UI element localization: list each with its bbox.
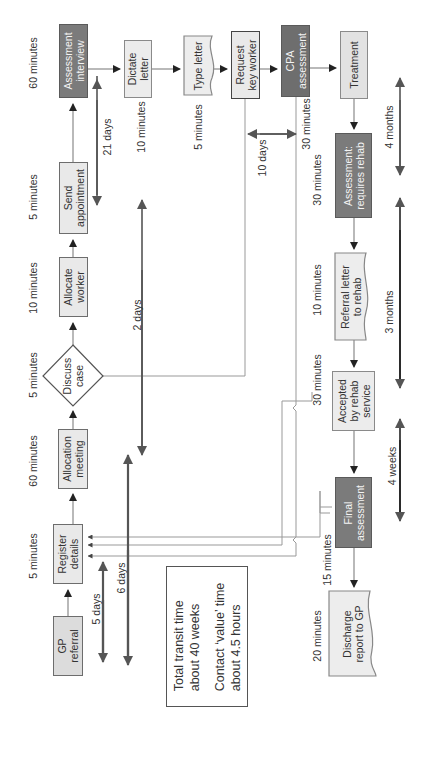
duration-label: 2 days bbox=[131, 300, 143, 331]
time-label: 20 minutes bbox=[311, 610, 323, 661]
time-label: 30 minutes bbox=[311, 354, 323, 405]
time-label: 5 minutes bbox=[27, 533, 39, 579]
time-label: 5 minutes bbox=[192, 104, 204, 150]
summary-line: about 4.5 hours bbox=[228, 582, 244, 691]
time-label: 30 minutes bbox=[311, 154, 323, 205]
step-label: Assessment interview bbox=[62, 32, 86, 89]
time-label: 60 minutes bbox=[27, 37, 39, 88]
step-referral-letter-to-rehab: Referral letter to rehab bbox=[335, 253, 366, 340]
step-label: Discuss case bbox=[61, 357, 85, 394]
duration-label: 4 weeks bbox=[386, 447, 398, 486]
step-assessment-requires-rehab: Assessment: requires rehab bbox=[335, 133, 372, 218]
step-label: Final assessment bbox=[342, 484, 366, 540]
time-label: 10 minutes bbox=[135, 101, 147, 152]
step-allocation-meeting: Allocation meeting bbox=[58, 429, 88, 489]
duration-label: 6 days bbox=[115, 563, 127, 594]
step-discuss-case: Discuss case bbox=[43, 345, 103, 406]
time-label: 30 minutes bbox=[300, 98, 312, 149]
step-label: Request key worker bbox=[234, 40, 258, 91]
step-send-appointment: Send appointment bbox=[59, 162, 88, 234]
step-type-letter: Type letter bbox=[184, 36, 212, 95]
step-assessment-interview: Assessment interview bbox=[59, 24, 88, 98]
time-label: 5 minutes bbox=[27, 352, 39, 398]
step-request-key-worker: Request key worker bbox=[231, 31, 260, 99]
summary-line: Contact ‘value’ time bbox=[212, 582, 228, 691]
step-label: Allocation meeting bbox=[61, 436, 85, 482]
step-label: Referral letter to rehab bbox=[339, 265, 363, 329]
step-label: Register details bbox=[56, 534, 80, 573]
step-label: CPA assessment bbox=[284, 33, 308, 89]
step-accepted-by-rehab: Accepted by rehab service bbox=[332, 371, 375, 431]
step-label: Accepted by rehab service bbox=[336, 379, 372, 423]
duration-label: 10 days bbox=[256, 140, 268, 177]
step-treatment: Treatment bbox=[340, 31, 368, 99]
step-label: Allocate worker bbox=[62, 268, 86, 305]
step-dictate-letter: Dictate letter bbox=[124, 40, 152, 98]
step-label: Discharge report to GP bbox=[341, 605, 365, 662]
step-register-details: Register details bbox=[53, 524, 83, 584]
duration-label: 5 days bbox=[90, 594, 102, 625]
duration-label: 21 days bbox=[101, 119, 113, 156]
step-final-assessment: Final assessment bbox=[335, 477, 372, 548]
time-label: 10 minutes bbox=[27, 262, 39, 313]
step-label: GP referral bbox=[56, 629, 80, 662]
duration-label: 4 months bbox=[383, 105, 395, 148]
step-discharge-report: Discharge report to GP bbox=[329, 591, 376, 676]
time-label: 5 minutes bbox=[27, 174, 39, 220]
step-allocate-worker: Allocate worker bbox=[59, 257, 88, 317]
step-label: Assessment: requires rehab bbox=[342, 142, 366, 210]
time-label: 10 minutes bbox=[311, 264, 323, 315]
time-label: 60 minutes bbox=[27, 435, 39, 486]
summary-box: Total transit time about 40 weeks Contac… bbox=[166, 566, 248, 707]
step-label: Dictate letter bbox=[126, 53, 150, 86]
process-flow-diagram: Assessment interview Send appointment Al… bbox=[0, 0, 422, 757]
time-label: 15 minutes bbox=[321, 534, 333, 585]
step-gp-referral: GP referral bbox=[53, 616, 83, 676]
step-label: Treatment bbox=[348, 41, 360, 88]
duration-label: 3 months bbox=[383, 290, 395, 333]
summary-line: Total transit time bbox=[171, 582, 187, 691]
step-cpa-assessment: CPA assessment bbox=[281, 25, 310, 97]
summary-line: about 40 weeks bbox=[187, 582, 203, 691]
step-label: Send appointment bbox=[62, 169, 86, 227]
step-label: Type letter bbox=[192, 41, 204, 90]
